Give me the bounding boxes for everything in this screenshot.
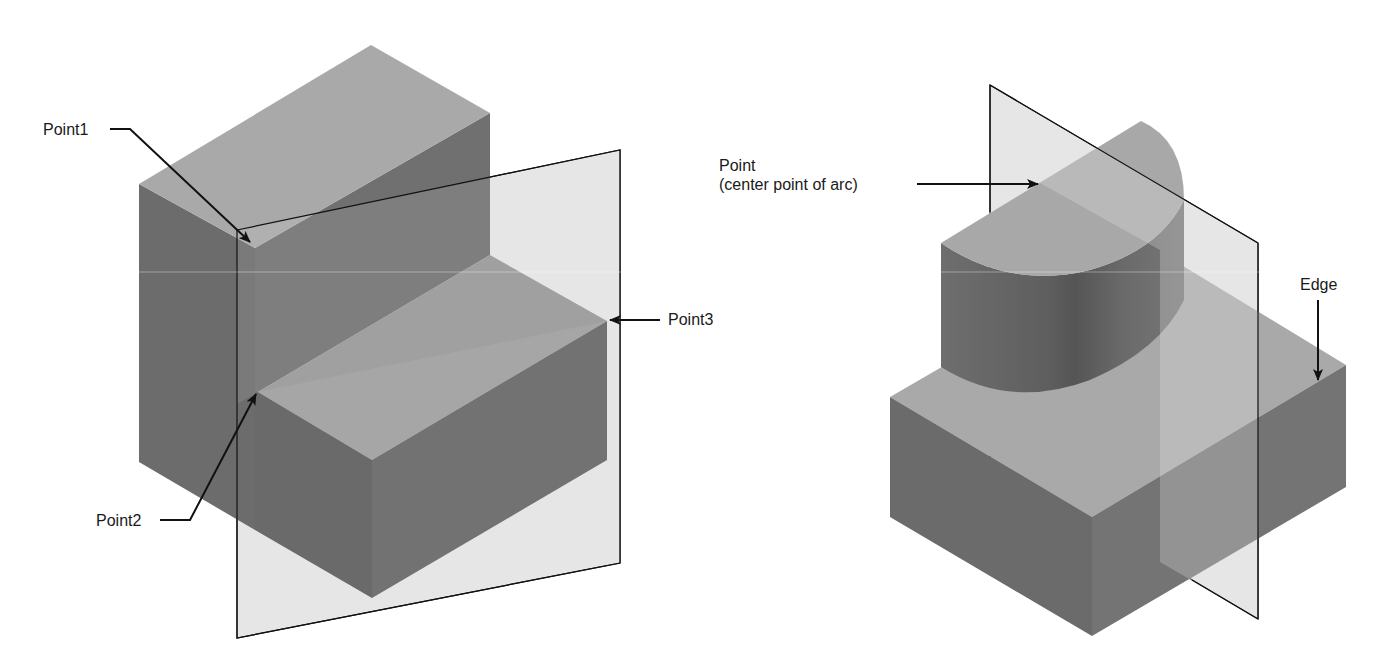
label-center-point-title: Point <box>719 156 755 175</box>
label-point3: Point3 <box>668 310 713 329</box>
left-figure <box>110 45 660 638</box>
diagram-canvas <box>0 0 1389 666</box>
label-edge: Edge <box>1300 275 1337 294</box>
label-point2: Point2 <box>96 511 141 530</box>
label-point1: Point1 <box>43 120 88 139</box>
right-figure <box>890 85 1346 636</box>
label-center-point-desc: (center point of arc) <box>719 175 858 194</box>
